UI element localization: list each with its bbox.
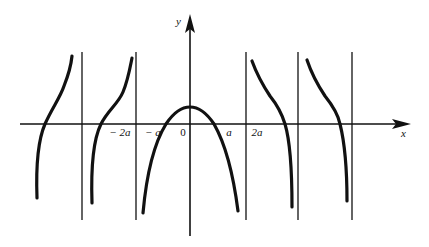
tick-label-pos-2a: 2a <box>252 126 264 138</box>
curve-right-branch-2 <box>307 60 347 201</box>
function-graph-figure: x y − 2a − a 0 a 2a <box>0 0 429 247</box>
tick-label-pos-a: a <box>226 126 232 138</box>
tick-label-neg-2a: − 2a <box>109 126 131 138</box>
x-axis-label: x <box>400 127 406 139</box>
tick-label-neg-a: − a <box>145 126 161 138</box>
curve-left-branch-1 <box>37 56 72 198</box>
y-axis-label: y <box>175 15 181 27</box>
y-axis <box>185 14 195 236</box>
tick-label-zero: 0 <box>180 126 186 138</box>
